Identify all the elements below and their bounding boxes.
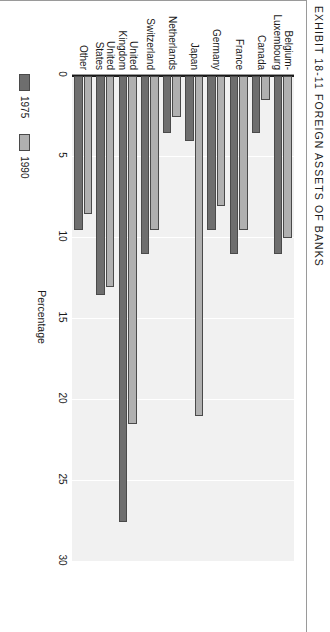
title-divider (306, 0, 307, 632)
rotated-figure-frame: EXHIBIT 18-11 FOREIGN ASSETS OF BANKS Be… (0, 0, 330, 632)
legend-swatch-1990 (19, 134, 30, 151)
bar-1975 (207, 76, 216, 230)
bar-1975 (230, 76, 239, 254)
category-group: France (227, 75, 249, 561)
category-group: Belgium- Luxembourg (272, 75, 294, 561)
bar-1975 (185, 76, 194, 141)
category-label: Japan (189, 0, 200, 70)
legend-item-1990: 1990 (19, 134, 30, 178)
y-tick-label: 5 (57, 152, 68, 158)
bar-1975 (74, 76, 83, 230)
legend-label-1990: 1990 (19, 156, 30, 178)
legend-label-1975: 1975 (19, 96, 30, 118)
bar-1975 (252, 76, 261, 133)
gridline (72, 561, 294, 562)
y-tick-label: 15 (57, 311, 68, 322)
category-group: United Kingdom (116, 75, 138, 561)
bar-1990 (150, 76, 159, 230)
y-tick-label: 30 (57, 554, 68, 565)
category-label: Switzerland (145, 0, 156, 70)
bar-1990 (84, 76, 93, 214)
bar-1975 (163, 76, 172, 133)
y-tick-label: 25 (57, 473, 68, 484)
bar-1975 (119, 76, 128, 522)
category-label: France (234, 0, 245, 70)
bar-1990 (128, 76, 137, 424)
bar-1975 (274, 76, 283, 254)
category-label: Belgium- Luxembourg (272, 0, 294, 70)
category-label: United States (94, 0, 116, 70)
category-label: Other (78, 0, 89, 70)
exhibit-title: EXHIBIT 18-11 FOREIGN ASSETS OF BANKS (313, 6, 325, 267)
y-tick-label: 0 (57, 71, 68, 77)
y-axis-label: Percentage (36, 74, 48, 560)
category-group: Netherlands (161, 75, 183, 561)
category-group: Japan (183, 75, 205, 561)
bar-1990 (283, 76, 292, 238)
y-tick-label: 10 (57, 230, 68, 241)
bar-1990 (261, 76, 270, 100)
bar-1990 (239, 76, 248, 230)
bar-1990 (195, 76, 204, 416)
chart-legend: 1975 1990 (19, 74, 30, 179)
category-label: Netherlands (167, 0, 178, 70)
category-label: Canada (256, 0, 267, 70)
category-label: Germany (211, 0, 222, 70)
bar-1990 (172, 76, 181, 117)
category-group: Germany (205, 75, 227, 561)
legend-item-1975: 1975 (19, 74, 30, 118)
bar-1990 (106, 76, 115, 287)
category-label: United Kingdom (117, 0, 139, 70)
category-group: Switzerland (139, 75, 161, 561)
category-group: Other (72, 75, 94, 561)
plot-area: Belgium- LuxembourgCanadaFranceGermanyJa… (72, 74, 294, 561)
legend-swatch-1975 (19, 74, 30, 91)
chart-figure: EXHIBIT 18-11 FOREIGN ASSETS OF BANKS Be… (0, 0, 330, 632)
bar-1990 (217, 76, 226, 206)
bar-1975 (141, 76, 150, 254)
bar-1975 (96, 76, 105, 295)
y-tick-label: 20 (57, 392, 68, 403)
category-group: United States (94, 75, 116, 561)
category-group: Canada (250, 75, 272, 561)
